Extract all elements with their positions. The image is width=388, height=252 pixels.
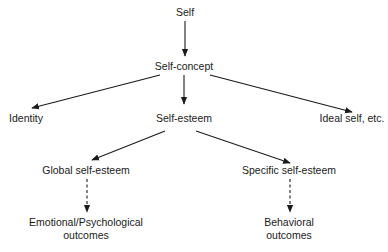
node-identity: Identity <box>9 112 43 124</box>
node-specific-self-esteem: Specific self-esteem <box>242 164 336 176</box>
edge-self-concept-to-identity <box>32 75 160 108</box>
node-behavioral-outcomes-line2: outcomes <box>264 229 314 241</box>
node-self-esteem: Self-esteem <box>156 112 212 124</box>
node-global-self-esteem: Global self-esteem <box>42 164 130 176</box>
node-ideal-self: Ideal self, etc. <box>320 112 385 124</box>
node-emotional-outcomes: Emotional/Psychological outcomes <box>29 216 143 241</box>
node-behavioral-outcomes: Behavioral outcomes <box>264 216 314 241</box>
edge-self-esteem-to-specific <box>196 131 290 163</box>
edge-self-concept-to-ideal-self <box>210 75 352 112</box>
diagram-edges <box>0 0 388 252</box>
node-self: Self <box>176 6 194 18</box>
node-emotional-outcomes-line1: Emotional/Psychological <box>29 216 143 228</box>
edge-self-esteem-to-global <box>92 131 165 160</box>
node-behavioral-outcomes-line1: Behavioral <box>264 216 314 228</box>
node-emotional-outcomes-line2: outcomes <box>29 229 143 241</box>
node-self-concept: Self-concept <box>155 60 213 72</box>
